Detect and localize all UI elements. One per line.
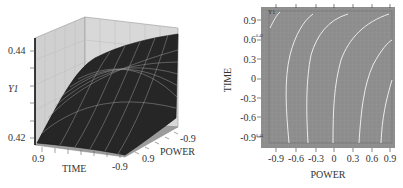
y-tick-0: 0 [251, 73, 256, 84]
y-axis-label: TIME [222, 68, 233, 92]
time-tick-pos: 0.9 [32, 153, 45, 164]
power-tick-pos: 0.9 [142, 153, 155, 164]
y-tick-neg0.3: -0.3 [240, 93, 256, 104]
x-tick-neg0.3: -0.3 [308, 153, 324, 164]
time-tick-neg: -0.9 [112, 161, 128, 172]
x-tick-0.3: 0.3 [347, 153, 360, 164]
plot-grid [261, 7, 395, 148]
surface-plot: 0.44 0.42 Y1 0.9 -0.9 TIME 0.9 -0.9 POWE… [0, 0, 200, 188]
power-axis-label: POWER [160, 146, 195, 157]
x-axis-label: POWER [311, 169, 346, 180]
contour-plot-svg: Y1 0.42 0.44 0.9 0.6 0.3 0 [200, 0, 403, 188]
z-tick-044: 0.44 [8, 45, 26, 56]
y-tick-neg0.9: -0.9 [240, 132, 256, 143]
y-tick-0.9: 0.9 [244, 15, 257, 26]
x-tick-0.6: 0.6 [366, 153, 379, 164]
x-tick-neg0.9: -0.9 [268, 153, 284, 164]
power-tick-neg: -0.9 [180, 133, 196, 144]
x-tick-neg0.6: -0.6 [288, 153, 304, 164]
side-label-top: 0.42 [256, 33, 263, 38]
x-tick-0.9: 0.9 [384, 153, 397, 164]
contour-plot: Y1 0.42 0.44 0.9 0.6 0.3 0 [200, 0, 403, 188]
y-tick-neg0.6: -0.6 [240, 112, 256, 123]
y-tick-0.3: 0.3 [244, 54, 257, 65]
z-tick-042: 0.42 [8, 132, 26, 143]
z-axis-label: Y1 [8, 83, 19, 94]
time-axis-label: TIME [62, 163, 86, 174]
surface-plot-svg: 0.44 0.42 Y1 0.9 -0.9 TIME 0.9 -0.9 POWE… [0, 0, 200, 188]
x-tick-0: 0 [332, 153, 337, 164]
corner-label: Y1 [268, 9, 275, 15]
y-tick-0.6: 0.6 [244, 34, 257, 45]
